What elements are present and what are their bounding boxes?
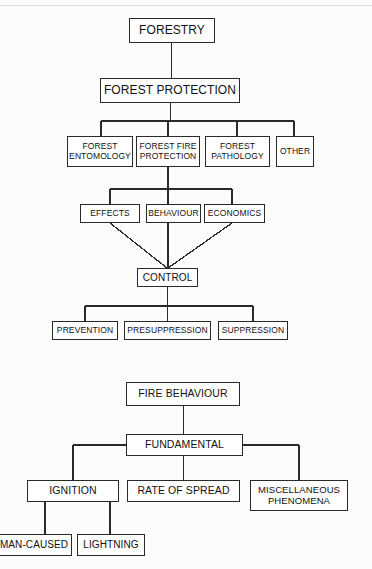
node-man-caused: MAN-CAUSED: [0, 534, 72, 556]
node-fire-behaviour: FIRE BEHAVIOUR: [126, 382, 240, 406]
node-forest-fire-protection: FOREST FIRE PROTECTION: [136, 136, 200, 167]
node-other: OTHER: [276, 136, 314, 167]
node-behaviour: BEHAVIOUR: [146, 204, 201, 223]
node-suppression: SUPPRESSION: [218, 321, 288, 340]
node-control: CONTROL: [137, 268, 198, 287]
node-prevention: PREVENTION: [52, 321, 118, 340]
node-rate-of-spread: RATE OF SPREAD: [127, 480, 240, 502]
node-forest-entomology: FOREST ENTOMOLOGY: [67, 136, 133, 167]
node-economics: ECONOMICS: [204, 204, 265, 223]
node-ignition: IGNITION: [27, 480, 119, 502]
diagram-canvas: FORESTRY FOREST PROTECTION FOREST ENTOMO…: [0, 0, 372, 569]
node-forest-protection: FOREST PROTECTION: [100, 78, 240, 103]
node-forestry: FORESTRY: [129, 18, 215, 43]
node-fundamental: FUNDAMENTAL: [126, 434, 243, 456]
node-forest-pathology: FOREST PATHOLOGY: [205, 136, 270, 167]
node-effects: EFFECTS: [80, 204, 140, 223]
node-miscellaneous-phenomena: MISCELLANEOUS PHENOMENA: [250, 480, 348, 511]
node-lightning: LIGHTNING: [77, 534, 145, 556]
node-presuppression: PRESUPPRESSION: [124, 321, 211, 340]
